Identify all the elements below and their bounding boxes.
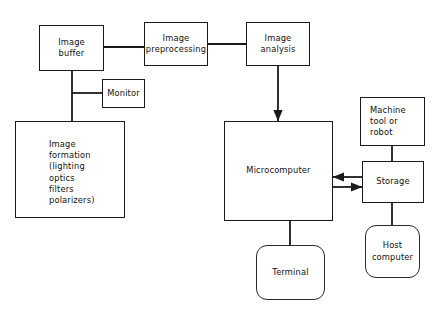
block-diagram: Image bufferImage preprocessingImage ana… bbox=[0, 0, 439, 311]
node-monitor: Monitor bbox=[102, 79, 145, 108]
node-image-buffer: Image buffer bbox=[39, 25, 104, 71]
node-terminal: Terminal bbox=[256, 245, 325, 300]
node-microcomputer: Microcomputer bbox=[224, 121, 333, 221]
node-image-formation: Image formation (lighting optics filters… bbox=[15, 121, 125, 218]
node-image-analysis: Image analysis bbox=[246, 22, 310, 66]
node-storage: Storage bbox=[362, 161, 424, 203]
node-host-computer: Host computer bbox=[365, 225, 420, 278]
node-machine-tool-or-robot: Machine tool or robot bbox=[360, 97, 425, 146]
node-image-preprocessing: Image preprocessing bbox=[144, 22, 208, 66]
